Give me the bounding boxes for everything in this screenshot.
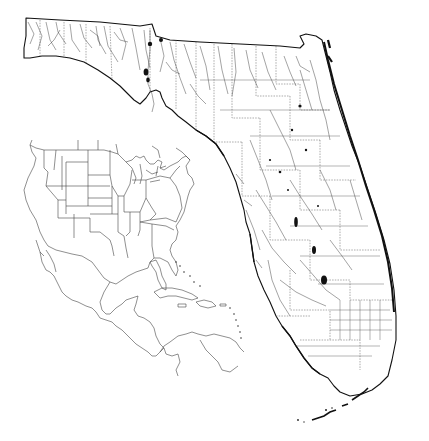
lake bbox=[279, 171, 282, 174]
puerto-rico bbox=[220, 304, 226, 306]
state-boundaries bbox=[44, 150, 182, 258]
florida-map bbox=[0, 0, 429, 441]
st-johns-estuary bbox=[328, 40, 332, 62]
lake bbox=[291, 129, 293, 131]
bahamas-lesser-antilles bbox=[175, 261, 242, 339]
hispaniola bbox=[196, 300, 216, 308]
dead-lakes bbox=[144, 69, 149, 76]
lake bbox=[146, 78, 150, 83]
mexico-central-america bbox=[36, 240, 178, 356]
lake-okeechobee bbox=[321, 276, 327, 285]
lake bbox=[317, 205, 319, 207]
lake bbox=[287, 189, 289, 191]
jamaica bbox=[178, 304, 186, 307]
lake-seminole bbox=[148, 42, 152, 46]
us-outline bbox=[24, 145, 194, 284]
lake bbox=[305, 149, 307, 151]
lake bbox=[298, 104, 301, 107]
florida-state bbox=[24, 18, 396, 423]
lake bbox=[312, 246, 316, 254]
north-america-inset bbox=[24, 140, 244, 376]
florida-inset bbox=[150, 260, 166, 290]
south-america-coast bbox=[160, 332, 244, 376]
lake-kissimmee bbox=[294, 217, 298, 227]
keys-islets bbox=[297, 407, 333, 422]
reservoir bbox=[159, 38, 163, 42]
cuba bbox=[154, 288, 198, 300]
lake bbox=[269, 159, 271, 161]
